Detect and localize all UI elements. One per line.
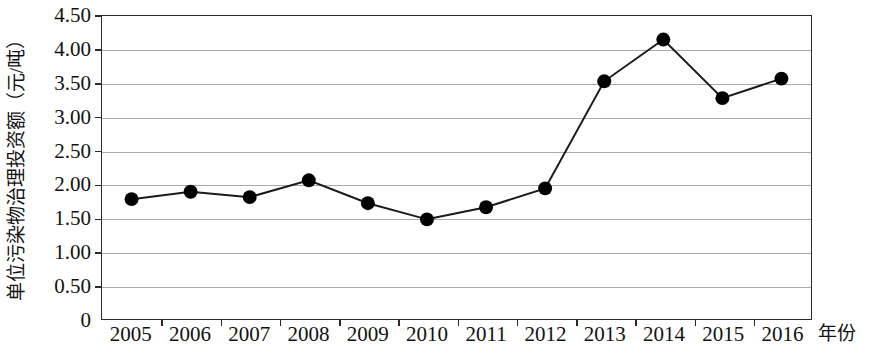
y-tick-label: 4.00: [54, 38, 91, 59]
x-tick-label: 2005: [110, 324, 152, 345]
y-tickmark: [95, 219, 102, 221]
y-tick-label: 4.50: [54, 5, 91, 26]
plot-area: [101, 15, 812, 320]
y-tickmark: [95, 185, 102, 187]
y-tick-label: 1.50: [54, 208, 91, 229]
y-axis-title: 单位污染物治理投资额（元/吨）: [0, 0, 34, 330]
y-tick-label: 2.50: [54, 140, 91, 161]
x-axis-tick-labels: 2005200620072008200920102011201220132014…: [101, 322, 812, 353]
x-tick-label: 2016: [761, 324, 803, 345]
x-tick-label: 2007: [228, 324, 270, 345]
y-tick-label: 1.00: [54, 242, 91, 263]
data-point-marker: [538, 181, 552, 195]
y-tick-label: 3.00: [54, 106, 91, 127]
data-point-marker: [125, 192, 139, 206]
y-axis-title-label: 单位污染物治理投资额（元/吨）: [8, 29, 27, 300]
y-tickmark: [95, 286, 102, 288]
data-point-marker: [656, 33, 670, 47]
y-axis-tick-labels: 00.501.001.502.002.503.003.504.004.50: [34, 15, 96, 320]
data-point-marker: [774, 72, 788, 86]
data-point-marker: [361, 196, 375, 210]
y-tickmark: [95, 117, 102, 119]
data-point-marker: [479, 200, 493, 214]
data-point-marker: [715, 91, 729, 105]
x-axis-title-label: 年份: [818, 323, 856, 344]
data-point-marker: [420, 212, 434, 226]
x-tick-label: 2011: [466, 324, 507, 345]
chart-screenshot: 单位污染物治理投资额（元/吨） 00.501.001.502.002.503.0…: [0, 0, 869, 353]
data-point-marker: [597, 74, 611, 88]
x-tick-label: 2010: [406, 324, 448, 345]
series-line: [132, 40, 782, 220]
x-tick-label: 2012: [524, 324, 566, 345]
data-point-marker: [302, 173, 316, 187]
x-axis-title: 年份: [818, 324, 856, 343]
y-tickmark: [95, 49, 102, 51]
data-point-marker: [243, 190, 257, 204]
y-tickmark: [95, 252, 102, 254]
x-tick-label: 2014: [643, 324, 685, 345]
x-tick-label: 2015: [702, 324, 744, 345]
line-series: [102, 16, 811, 319]
y-tickmark: [95, 15, 102, 17]
y-tick-label: 0: [81, 310, 92, 331]
x-tick-label: 2009: [347, 324, 389, 345]
y-tickmark: [95, 83, 102, 85]
y-tick-label: 0.50: [54, 276, 91, 297]
x-tick-label: 2013: [584, 324, 626, 345]
y-tick-label: 3.50: [54, 72, 91, 93]
y-tick-label: 2.00: [54, 174, 91, 195]
x-tick-label: 2006: [169, 324, 211, 345]
y-tickmark: [95, 151, 102, 153]
x-tick-label: 2008: [287, 324, 329, 345]
data-point-marker: [184, 185, 198, 199]
